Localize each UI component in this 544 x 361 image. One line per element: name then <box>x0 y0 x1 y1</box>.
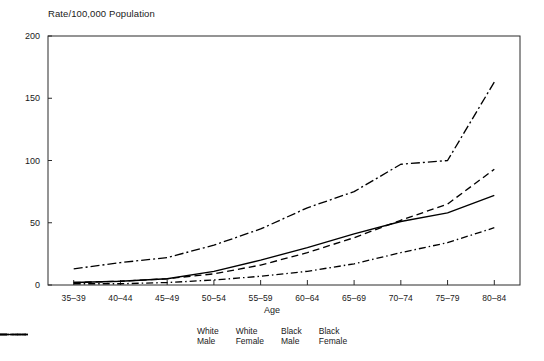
y-tick-label: 50 <box>6 218 40 228</box>
legend-label: Black Female <box>319 326 347 346</box>
x-tick-label: 35–39 <box>62 293 86 303</box>
series-line-black-female <box>74 195 495 282</box>
y-tick-label: 0 <box>6 280 40 290</box>
plot-frame <box>48 36 520 285</box>
legend-line-swatch <box>0 329 28 340</box>
x-axis-title: Age <box>0 305 544 315</box>
y-tick-label: 150 <box>6 93 40 103</box>
y-tick-label: 100 <box>6 156 40 166</box>
legend-label: White Male <box>197 326 219 346</box>
series-line-white-male <box>74 169 495 282</box>
legend-item-black-female[interactable]: Black Female <box>319 326 347 346</box>
x-tick-label: 50–54 <box>202 293 226 303</box>
series-line-white-female <box>74 228 495 284</box>
x-tick-label: 60–64 <box>295 293 319 303</box>
legend-label: White Female <box>236 326 264 346</box>
series-line-black-male <box>74 82 495 269</box>
legend-item-white-female[interactable]: White Female <box>236 326 264 346</box>
x-tick-label: 40–44 <box>108 293 132 303</box>
x-tick-label: 45–49 <box>155 293 179 303</box>
x-tick-label: 70–74 <box>389 293 413 303</box>
y-tick-label: 200 <box>6 31 40 41</box>
line-chart: Rate/100,000 Population 200150100500 35–… <box>0 0 544 361</box>
chart-legend: White MaleWhite FemaleBlack MaleBlack Fe… <box>0 326 544 346</box>
legend-item-white-male[interactable]: White Male <box>197 326 219 346</box>
legend-item-black-male[interactable]: Black Male <box>281 326 302 346</box>
x-tick-label: 75–79 <box>435 293 459 303</box>
x-tick-label: 55–59 <box>249 293 273 303</box>
x-tick-label: 65–69 <box>342 293 366 303</box>
x-tick-label: 80–84 <box>482 293 506 303</box>
legend-label: Black Male <box>281 326 302 346</box>
